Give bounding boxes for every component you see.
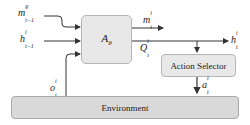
action-label: ait: [202, 80, 209, 92]
environment-label: Environment: [102, 103, 149, 113]
output-hidden-label: hit: [231, 35, 238, 47]
environment-block: Environment: [11, 96, 239, 119]
agent-block: Aθ: [81, 15, 132, 64]
output-qvalue-label: Qit: [140, 43, 149, 55]
input-message-label: mgt−1: [18, 8, 34, 20]
agent-label: Aθ: [101, 32, 111, 47]
input-hidden-label: hit−1: [20, 34, 34, 46]
action-selector-block: Action Selector: [161, 54, 236, 77]
action-selector-label: Action Selector: [170, 61, 226, 71]
output-message-label: mit: [143, 15, 152, 27]
observation-label: oit: [50, 83, 57, 95]
